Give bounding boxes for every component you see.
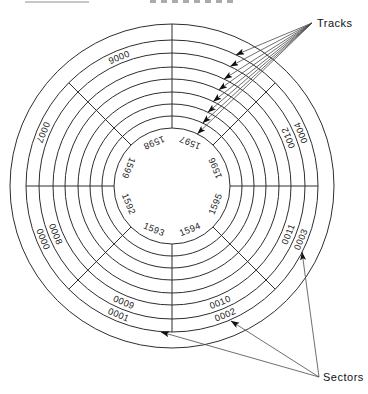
tracks-arrow	[213, 23, 312, 102]
cropped-caption-remnant	[25, 1, 89, 3]
disk-figure-svg: 0000 0001 0002 0003 0004 0006 0007 0008 …	[0, 0, 368, 394]
tracks-callout-arrows	[197, 23, 312, 134]
tracks-arrow	[208, 23, 312, 112]
sector-label: 1595	[207, 192, 225, 216]
sector-boundaries	[26, 24, 318, 332]
tracks-arrow	[224, 23, 312, 79]
innermost-track-labels: 1592 1593 1594 1595 1596 1597 1598 1599	[120, 134, 224, 238]
sector-label: 1592	[120, 192, 138, 216]
sectors-callout-arrows	[161, 252, 319, 377]
sector-label: 0006	[107, 48, 131, 66]
sector-label: 1599	[120, 156, 138, 180]
sectors-arrow	[161, 332, 319, 377]
sector-label: 1596	[207, 156, 225, 180]
sectors-callout-label: Sectors	[323, 371, 364, 383]
tracks-arrow	[197, 23, 312, 134]
sector-label: 1594	[178, 221, 202, 239]
cropped-caption-remnant	[150, 0, 238, 3]
disk-diagram: 0000 0001 0002 0003 0004 0006 0007 0008 …	[0, 0, 368, 394]
track-circle	[114, 128, 230, 244]
sectors-arrow	[231, 321, 319, 377]
tracks-callout-label: Tracks	[317, 17, 353, 29]
sector-label: 1593	[142, 221, 166, 239]
sector-label: 1598	[142, 134, 166, 152]
tracks-arrow	[219, 23, 312, 90]
sector-label: 1597	[178, 134, 202, 152]
sector-label: 0007	[34, 121, 52, 145]
